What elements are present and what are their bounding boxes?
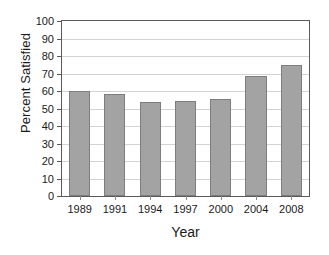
y-axis-tick-label: 0 xyxy=(48,190,54,202)
x-axis-tick xyxy=(221,196,222,200)
x-axis-tick xyxy=(186,196,187,200)
bar xyxy=(175,101,196,196)
y-axis-tick-label: 80 xyxy=(42,50,54,62)
y-axis-tick-label: 10 xyxy=(42,173,54,185)
y-axis-tick-label: 70 xyxy=(42,68,54,80)
bar xyxy=(69,91,90,196)
y-axis-tick xyxy=(57,196,62,197)
bar xyxy=(281,65,302,196)
y-axis-tick xyxy=(57,21,62,22)
x-axis-tick-label: 2000 xyxy=(209,203,233,215)
y-axis-tick-label: 50 xyxy=(42,103,54,115)
x-axis-tick xyxy=(150,196,151,200)
x-axis-tick xyxy=(291,196,292,200)
y-axis-tick xyxy=(57,39,62,40)
x-axis-tick-label: 1991 xyxy=(103,203,127,215)
x-axis-tick xyxy=(256,196,257,200)
x-axis-tick-label: 1989 xyxy=(67,203,91,215)
gridline xyxy=(62,56,309,57)
plot-inner: 0102030405060708090100198919911994199720… xyxy=(62,21,309,196)
y-axis-tick-label: 20 xyxy=(42,155,54,167)
y-axis-tick xyxy=(57,144,62,145)
y-axis-tick xyxy=(57,91,62,92)
y-axis-tick-label: 100 xyxy=(36,15,54,27)
bar-chart-figure: Percent Satisfied 0102030405060708090100… xyxy=(0,0,329,255)
bar xyxy=(210,99,231,196)
y-axis-tick xyxy=(57,126,62,127)
y-axis-tick-label: 90 xyxy=(42,33,54,45)
x-axis-tick-label: 2008 xyxy=(279,203,303,215)
y-axis-title: Percent Satisfied xyxy=(16,13,36,153)
gridline xyxy=(62,39,309,40)
y-axis-tick xyxy=(57,56,62,57)
y-axis-tick xyxy=(57,74,62,75)
x-axis-tick-label: 2004 xyxy=(244,203,268,215)
x-axis-tick xyxy=(80,196,81,200)
plot-area: 0102030405060708090100198919911994199720… xyxy=(61,20,310,197)
gridline xyxy=(62,91,309,92)
y-axis-tick-label: 30 xyxy=(42,138,54,150)
y-axis-tick xyxy=(57,179,62,180)
y-axis-tick-label: 40 xyxy=(42,120,54,132)
x-axis-title: Year xyxy=(61,224,310,240)
bar xyxy=(104,94,125,196)
y-axis-tick-label: 60 xyxy=(42,85,54,97)
gridline xyxy=(62,74,309,75)
bar xyxy=(140,102,161,196)
x-axis-tick-label: 1994 xyxy=(138,203,162,215)
y-axis-tick xyxy=(57,161,62,162)
x-axis-tick xyxy=(115,196,116,200)
x-axis-tick-label: 1997 xyxy=(173,203,197,215)
bar xyxy=(245,76,266,196)
y-axis-tick xyxy=(57,109,62,110)
